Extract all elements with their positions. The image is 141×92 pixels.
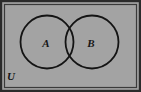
universe-label: U <box>7 70 16 82</box>
venn-diagram-canvas: A B U <box>0 0 141 92</box>
set-a-label: A <box>41 37 49 49</box>
venn-diagram-figure: A B U <box>0 0 141 92</box>
set-b-label: B <box>86 37 94 49</box>
